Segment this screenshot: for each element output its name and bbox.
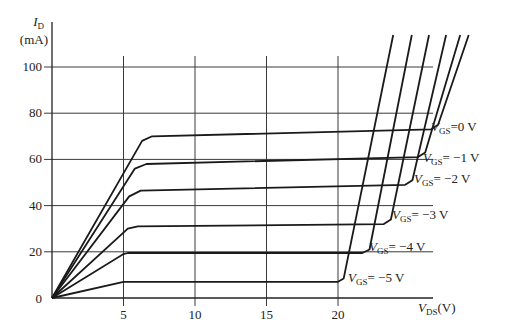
x-axis-title: VDS(V) bbox=[418, 300, 456, 317]
curve-labels: VGS=0 VVGS= −1 VVGS= −2 VVGS= −3 VVGS= −… bbox=[348, 119, 480, 287]
id-vds-characteristic-chart: 0204060801005101520 VGS=0 VVGS= −1 VVGS=… bbox=[0, 0, 516, 334]
y-tick-label: 60 bbox=[29, 151, 42, 166]
curve-label: VGS= −2 V bbox=[414, 171, 471, 188]
y-axis-unit: (mA) bbox=[20, 32, 48, 47]
y-axis-title: ID bbox=[32, 14, 44, 31]
axes bbox=[52, 22, 433, 298]
x-tick-label: 10 bbox=[189, 307, 202, 322]
curve-label: VGS= −4 V bbox=[369, 239, 426, 256]
grid-lines bbox=[44, 56, 433, 306]
curve-v-gs-5-v bbox=[52, 35, 393, 298]
curve-v-gs-2-v bbox=[52, 35, 446, 298]
curve-label: VGS= −1 V bbox=[423, 150, 480, 167]
y-tick-label: 40 bbox=[29, 198, 42, 213]
y-tick-label: 0 bbox=[36, 291, 43, 306]
curve-v-gs-4-v bbox=[52, 35, 412, 298]
curve-label: VGS= −3 V bbox=[392, 207, 449, 224]
curve-v-gs-3-v bbox=[52, 35, 429, 298]
curve-v-gs-0-v bbox=[52, 35, 469, 298]
y-tick-label: 80 bbox=[29, 105, 42, 120]
x-tick-label: 20 bbox=[332, 307, 345, 322]
y-tick-label: 100 bbox=[23, 59, 43, 74]
x-tick-label: 5 bbox=[120, 307, 127, 322]
curve-v-gs-1-v bbox=[52, 35, 460, 298]
curve-label: VGS= −5 V bbox=[348, 270, 405, 287]
characteristic-curves bbox=[52, 35, 469, 298]
y-tick-label: 20 bbox=[29, 244, 42, 259]
curve-label: VGS=0 V bbox=[431, 119, 477, 136]
x-tick-label: 15 bbox=[260, 307, 273, 322]
